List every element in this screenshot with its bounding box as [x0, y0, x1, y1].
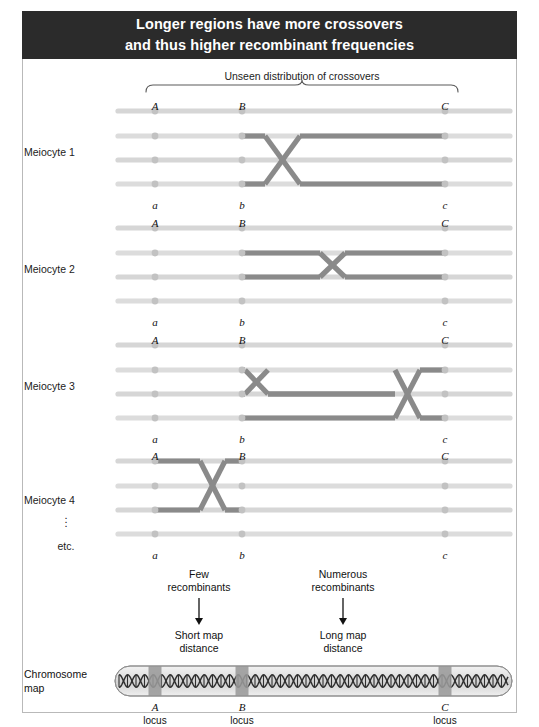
- chromosome-locus-c-name: C: [441, 701, 448, 713]
- chromosome-map-label-line-2: map: [24, 682, 87, 696]
- allele-label-b-meiocyte-4-bottom: b: [239, 549, 245, 561]
- allele-label-b-meiocyte-3-bottom: b: [239, 433, 245, 445]
- annotation-short-line-2: distance: [175, 642, 223, 655]
- chromosome-locus-c: C locus: [433, 700, 456, 727]
- chromosome-locus-a: A locus: [143, 700, 166, 727]
- allele-label-C-meiocyte-1-top: C: [441, 100, 448, 112]
- allele-label-a-meiocyte-2-bottom: a: [152, 316, 158, 328]
- meiocyte-1-label: Meiocyte 1: [24, 146, 75, 158]
- unseen-distribution-caption: Unseen distribution of crossovers: [224, 70, 379, 82]
- annotation-numerous-line-1: Numerous: [311, 568, 374, 581]
- vertical-ellipsis: ...: [64, 513, 67, 525]
- allele-label-B-meiocyte-2-top: B: [239, 217, 246, 229]
- annotation-few-line-2: recombinants: [167, 581, 230, 594]
- chromosome-locus-b-sub: locus: [230, 714, 253, 727]
- chromosome-locus-b: B locus: [230, 700, 253, 727]
- allele-label-a-meiocyte-1-bottom: a: [152, 199, 158, 211]
- allele-label-A-meiocyte-2-top: A: [152, 217, 159, 229]
- annotation-long-line-1: Long map: [320, 629, 367, 642]
- chromosome-locus-c-sub: locus: [433, 714, 456, 727]
- allele-label-b-meiocyte-1-bottom: b: [239, 199, 245, 211]
- annotation-short-line-1: Short map: [175, 629, 223, 642]
- allele-label-A-meiocyte-1-top: A: [152, 100, 159, 112]
- meiocyte-4-label: Meiocyte 4: [24, 494, 75, 506]
- allele-label-b-meiocyte-2-bottom: b: [239, 316, 245, 328]
- allele-label-c-meiocyte-4-bottom: c: [443, 549, 448, 561]
- chromosome-locus-a-sub: locus: [143, 714, 166, 727]
- annotation-short-map-distance: Short map distance: [175, 629, 223, 655]
- title-line-1: Longer regions have more crossovers: [136, 16, 403, 32]
- allele-label-c-meiocyte-2-bottom: c: [443, 316, 448, 328]
- chromosome-locus-b-name: B: [239, 701, 246, 713]
- figure-frame: [22, 11, 517, 713]
- meiocyte-3-label: Meiocyte 3: [24, 380, 75, 392]
- title-line-2: and thus higher recombinant frequencies: [125, 37, 414, 53]
- allele-label-A-meiocyte-3-top: A: [152, 334, 159, 346]
- annotation-long-map-distance: Long map distance: [320, 629, 367, 655]
- allele-label-B-meiocyte-3-top: B: [239, 334, 246, 346]
- annotation-few-line-1: Few: [167, 568, 230, 581]
- allele-label-A-meiocyte-4-top: A: [152, 450, 159, 462]
- allele-label-C-meiocyte-3-top: C: [441, 334, 448, 346]
- annotation-numerous-line-2: recombinants: [311, 581, 374, 594]
- figure-title-bar: Longer regions have more crossovers and …: [22, 11, 517, 59]
- chromosome-map-label: Chromosome map: [24, 668, 87, 695]
- allele-label-c-meiocyte-1-bottom: c: [443, 199, 448, 211]
- annotation-numerous-recombinants: Numerous recombinants: [311, 568, 374, 594]
- chromosome-map-label-line-1: Chromosome: [24, 668, 87, 682]
- etc-label: etc.: [58, 540, 75, 552]
- allele-label-a-meiocyte-4-bottom: a: [152, 549, 158, 561]
- annotation-few-recombinants: Few recombinants: [167, 568, 230, 594]
- allele-label-c-meiocyte-3-bottom: c: [443, 433, 448, 445]
- meiocyte-2-label: Meiocyte 2: [24, 263, 75, 275]
- figure-title: Longer regions have more crossovers and …: [115, 14, 424, 55]
- allele-label-a-meiocyte-3-bottom: a: [152, 433, 158, 445]
- allele-label-C-meiocyte-2-top: C: [441, 217, 448, 229]
- allele-label-B-meiocyte-4-top: B: [239, 450, 246, 462]
- allele-label-B-meiocyte-1-top: B: [239, 100, 246, 112]
- allele-label-C-meiocyte-4-top: C: [441, 450, 448, 462]
- annotation-long-line-2: distance: [320, 642, 367, 655]
- figure-root: Longer regions have more crossovers and …: [0, 0, 539, 727]
- chromosome-locus-a-name: A: [152, 701, 159, 713]
